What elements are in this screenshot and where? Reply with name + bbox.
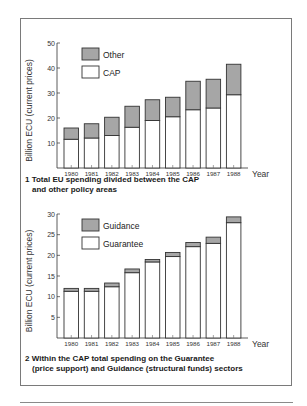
bar-guarantee-1988 (226, 223, 241, 338)
legend-swatch-guidance (82, 219, 99, 231)
x-tick-label: 1987 (206, 340, 220, 347)
bar-guarantee-1985 (166, 257, 181, 338)
bar-guarantee-1983 (125, 273, 139, 338)
bar-guidance-1984 (145, 259, 160, 261)
bar-guidance-1983 (125, 269, 139, 273)
x-tick-label: 1988 (227, 340, 241, 347)
y-tick-label: 15 (47, 273, 55, 280)
y-tick-label: 25 (47, 231, 55, 238)
y-tick-label: 20 (47, 252, 55, 259)
caption-2-line-2: (price support) and Guidance (structural… (25, 364, 243, 374)
legend-label-guidance: Guidance (103, 221, 140, 231)
bar-guarantee-1981 (84, 291, 99, 338)
caption-1-line-2: and other policy areas (25, 185, 199, 195)
chart-cap-guarantee-guidance: 51015202530Billion ECU (current prices)1… (0, 0, 307, 406)
bar-guarantee-1980 (64, 291, 79, 338)
bar-guidance-1986 (186, 243, 201, 247)
bar-guidance-1985 (166, 252, 181, 256)
x-tick-label: 1986 (186, 340, 200, 347)
bar-guarantee-1984 (145, 262, 160, 338)
y-tick-label: 10 (47, 293, 55, 300)
bar-guidance-1982 (105, 283, 120, 287)
bar-guidance-1987 (206, 237, 221, 243)
x-tick-label: 1982 (105, 340, 119, 347)
x-tick-label: 1984 (146, 340, 160, 347)
bar-guarantee-1987 (206, 243, 221, 338)
caption-2-line-1: 2 Within the CAP total spending on the G… (25, 354, 214, 363)
x-tick-label: 1981 (85, 340, 99, 347)
bar-guidance-1981 (84, 288, 99, 291)
y-tick-label: 5 (51, 314, 55, 321)
x-axis-title: Year (252, 339, 269, 349)
caption-chart-1: 1 Total EU spending divided between the … (25, 175, 199, 195)
bar-guidance-1988 (226, 217, 241, 223)
caption-1-line-1: 1 Total EU spending divided between the … (25, 175, 199, 184)
bar-guidance-1980 (64, 288, 79, 291)
bar-guarantee-1982 (105, 287, 120, 338)
y-axis-title: Billion ECU (current prices) (24, 230, 34, 333)
caption-chart-2: 2 Within the CAP total spending on the G… (25, 354, 243, 374)
x-tick-label: 1983 (125, 340, 139, 347)
legend-swatch-guarantee (82, 237, 99, 249)
x-tick-label: 1985 (166, 340, 180, 347)
legend-label-guarantee: Guarantee (103, 239, 143, 249)
bar-guarantee-1986 (186, 247, 201, 338)
y-tick-label: 30 (47, 211, 55, 218)
x-tick-label: 1980 (64, 340, 78, 347)
